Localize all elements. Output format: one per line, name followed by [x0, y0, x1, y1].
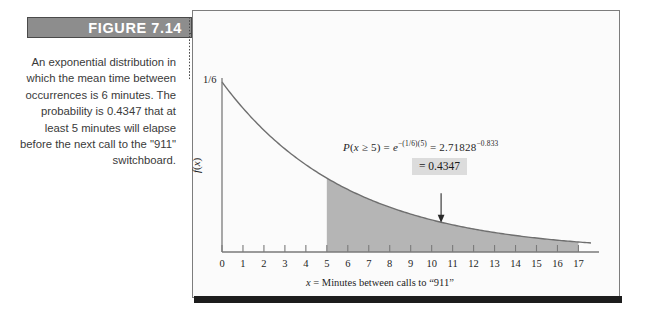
x-axis-tick-label: 16 — [552, 258, 563, 269]
x-axis-tick-label: 11 — [448, 258, 458, 269]
figure-caption: An exponential distribution in which the… — [18, 54, 176, 169]
x-axis-tick-label: 0 — [219, 258, 224, 269]
probability-result-box: = 0.4347 — [412, 158, 467, 175]
x-axis-tick-label: 7 — [366, 258, 371, 269]
x-axis-tick-label: 5 — [324, 258, 329, 269]
x-axis-tick-label: 2 — [261, 258, 266, 269]
x-axis-tick-label: 6 — [345, 258, 350, 269]
x-axis-tick-labels: 01234567891011121314151617 — [192, 258, 620, 272]
figure-container: FIGURE 7.14 An exponential distribution … — [0, 0, 653, 320]
x-axis-tick-label: 1 — [240, 258, 245, 269]
exponential-distribution-plot — [192, 10, 620, 298]
x-axis-tick-label: 12 — [468, 258, 479, 269]
x-axis-tick-label: 8 — [387, 258, 392, 269]
probability-formula: P(x ≥ 5) = e−(1/6)(5) = 2.71828−0.833 — [343, 139, 498, 153]
x-axis-tick-label: 10 — [426, 258, 437, 269]
y-axis-tick-label-top: 1/6 — [203, 74, 216, 85]
x-axis-tick-label: 9 — [408, 258, 413, 269]
x-axis-tick-label: 15 — [531, 258, 542, 269]
x-axis-tick-label: 4 — [303, 258, 308, 269]
dotted-guide-vertical — [189, 17, 190, 80]
x-axis-tick-label: 17 — [573, 258, 584, 269]
figure-banner: FIGURE 7.14 — [27, 17, 192, 38]
x-axis-tick-label: 13 — [489, 258, 500, 269]
x-axis-tick-label: 14 — [510, 258, 521, 269]
shaded-probability-region — [327, 178, 579, 252]
figure-banner-label: FIGURE 7.14 — [88, 20, 182, 36]
y-axis-title: f(x) — [190, 158, 202, 173]
x-axis-title: x = Minutes between calls to “911” — [306, 277, 454, 288]
x-axis-tick-label: 3 — [282, 258, 287, 269]
